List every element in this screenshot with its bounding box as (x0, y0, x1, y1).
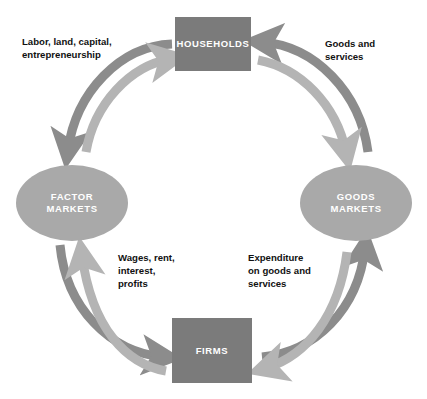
node-firms: FIRMS (172, 318, 252, 383)
flow-label-expenditure: Expenditure on goods and services (248, 252, 348, 291)
flow-label-wages: Wages, rent, interest, profits (118, 252, 213, 291)
node-goods-markets-label: GOODS MARKETS (330, 191, 381, 215)
circular-flow-diagram: HOUSEHOLDS FACTOR MARKETS GOODS MARKETS … (0, 0, 427, 399)
node-factor-markets: FACTOR MARKETS (16, 165, 128, 241)
flow-label-labor: Labor, land, capital, entrepreneurship (22, 36, 152, 62)
arrow-factor-markets-to-households (86, 59, 170, 152)
node-firms-label: FIRMS (196, 345, 229, 357)
node-factor-markets-label: FACTOR MARKETS (46, 191, 97, 215)
node-goods-markets: GOODS MARKETS (300, 165, 412, 241)
node-households-label: HOUSEHOLDS (176, 38, 249, 50)
flow-label-goods-services: Goods and services (325, 38, 420, 64)
node-households: HOUSEHOLDS (175, 17, 251, 71)
